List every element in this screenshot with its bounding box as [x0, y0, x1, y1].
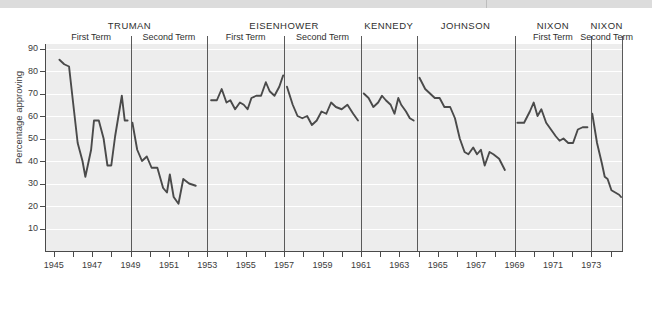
x-tick-label-1961: 1961	[346, 260, 376, 270]
y-tick-60	[40, 116, 45, 117]
y-tick-label-20: 20	[0, 202, 38, 211]
x-tick-1948	[111, 252, 112, 257]
president-block-nixon-5: NIXON	[537, 20, 652, 31]
x-tick-1966	[457, 252, 458, 257]
x-tick-1967	[476, 252, 477, 257]
x-tick-label-1965: 1965	[423, 260, 453, 270]
y-tick-label-70: 70	[0, 89, 38, 98]
x-tick-label-1945: 1945	[39, 260, 69, 270]
y-tick-10	[40, 229, 45, 230]
x-tick-1972	[572, 252, 573, 257]
approval-line-eisenhower-first-term	[211, 76, 283, 110]
x-tick-1963	[399, 252, 400, 257]
x-tick-label-1949: 1949	[116, 260, 146, 270]
y-tick-50	[40, 139, 45, 140]
approval-line-nixon-first-term	[517, 103, 587, 144]
approval-line-truman-first-term	[59, 60, 127, 177]
x-tick-1954	[227, 252, 228, 257]
x-tick-1951	[169, 252, 170, 257]
approval-chart-figure: Percentage approving 1020304050607080901…	[0, 8, 652, 311]
term-label-eisenhower-1: Second Term	[277, 32, 367, 43]
approval-line-eisenhower-second-term	[287, 87, 358, 125]
x-tick-label-1967: 1967	[461, 260, 491, 270]
x-tick-1961	[361, 252, 362, 257]
y-tick-30	[40, 184, 45, 185]
x-tick-1962	[380, 252, 381, 257]
x-axis-line	[45, 251, 623, 252]
x-tick-1952	[188, 252, 189, 257]
term-divider-1973	[591, 36, 592, 251]
y-tick-40	[40, 161, 45, 162]
figure-caption-strip	[10, 300, 642, 311]
x-tick-1959	[323, 252, 324, 257]
y-tick-70	[40, 94, 45, 95]
y-tick-20	[40, 206, 45, 207]
x-tick-1957	[284, 252, 285, 257]
x-tick-label-1955: 1955	[231, 260, 261, 270]
x-tick-1945	[54, 252, 55, 257]
x-tick-label-1963: 1963	[384, 260, 414, 270]
x-tick-1947	[92, 252, 93, 257]
x-tick-1950	[150, 252, 151, 257]
y-tick-80	[40, 71, 45, 72]
x-tick-1965	[438, 252, 439, 257]
x-tick-1953	[207, 252, 208, 257]
x-tick-label-1947: 1947	[77, 260, 107, 270]
top-bar-seam	[486, 0, 487, 8]
term-divider-1969	[515, 36, 516, 251]
x-tick-1964	[419, 252, 420, 257]
x-tick-label-1971: 1971	[538, 260, 568, 270]
x-tick-label-1953: 1953	[192, 260, 222, 270]
x-tick-label-1973: 1973	[576, 260, 606, 270]
term-divider-1957	[284, 36, 285, 251]
y-tick-90	[40, 49, 45, 50]
term-label-truman-0: First Term	[46, 32, 136, 43]
term-divider-1961	[361, 36, 362, 251]
x-tick-label-1957: 1957	[269, 260, 299, 270]
x-tick-1970	[534, 252, 535, 257]
x-tick-1973	[591, 252, 592, 257]
term-divider-1963-9	[417, 36, 418, 251]
term-divider-1949	[131, 36, 132, 251]
x-tick-1960	[342, 252, 343, 257]
y-tick-label-10: 10	[0, 224, 38, 233]
y-tick-label-80: 80	[0, 67, 38, 76]
x-tick-1958	[303, 252, 304, 257]
x-tick-1956	[265, 252, 266, 257]
y-tick-label-60: 60	[0, 112, 38, 121]
approval-line-kennedy	[364, 94, 414, 121]
approval-line-series	[46, 44, 622, 251]
y-tick-label-30: 30	[0, 179, 38, 188]
x-tick-1968	[495, 252, 496, 257]
x-tick-1971	[553, 252, 554, 257]
x-tick-label-1959: 1959	[308, 260, 338, 270]
president-block-truman-0: TRUMAN	[60, 20, 200, 31]
y-tick-label-50: 50	[0, 134, 38, 143]
x-tick-1969	[515, 252, 516, 257]
x-tick-label-1951: 1951	[154, 260, 184, 270]
term-divider-1953	[207, 36, 208, 251]
term-label-nixon-5: Second Term	[562, 32, 652, 43]
x-tick-1955	[246, 252, 247, 257]
y-tick-label-90: 90	[0, 44, 38, 53]
x-tick-label-1969: 1969	[500, 260, 530, 270]
president-name-label: TRUMAN	[60, 20, 200, 31]
x-tick-1949	[131, 252, 132, 257]
approval-line-truman-second-term	[132, 123, 195, 204]
approval-line-johnson	[419, 78, 504, 170]
y-tick-label-40: 40	[0, 157, 38, 166]
term-divider-1974-6	[622, 36, 623, 251]
x-tick-1946	[73, 252, 74, 257]
approval-line-nixon-second-term	[592, 114, 621, 197]
president-name-label: NIXON	[537, 20, 652, 31]
x-tick-1974	[611, 252, 612, 257]
